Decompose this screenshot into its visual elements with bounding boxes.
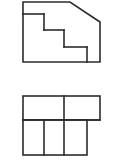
front-elevation-outline [23, 2, 100, 62]
lower-band-outline [23, 120, 87, 155]
technical-drawing-svg [0, 0, 123, 165]
plan-top-view [23, 96, 100, 155]
front-elevation-view [23, 2, 100, 62]
drawing-canvas [0, 0, 123, 165]
upper-band-outline [23, 96, 100, 120]
